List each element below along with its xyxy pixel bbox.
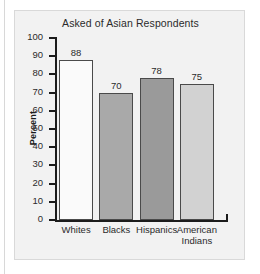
y-tick-mark — [49, 73, 55, 75]
figure-root: Asked of Asian Respondents Percent 01020… — [0, 0, 260, 274]
y-tick-mark — [49, 164, 55, 166]
x-axis-line — [55, 220, 228, 222]
y-tick-mark — [49, 110, 55, 112]
y-tick-label: 70 — [17, 87, 43, 97]
category-label-line: American — [173, 224, 221, 235]
y-tick-label: 80 — [17, 68, 43, 78]
y-tick-label: 10 — [17, 196, 43, 206]
page-edge-rule — [4, 0, 5, 274]
bar-value-label: 75 — [177, 71, 217, 82]
category-label: AmericanIndians — [173, 224, 221, 246]
bar-value-label: 78 — [137, 65, 177, 76]
y-tick-label: 50 — [17, 123, 43, 133]
y-tick-label: 100 — [17, 32, 43, 42]
category-label-line: Indians — [173, 235, 221, 246]
y-tick-label: 40 — [17, 141, 43, 151]
x-axis-endcap — [226, 214, 228, 222]
y-tick-label: 60 — [17, 105, 43, 115]
bar-value-label: 88 — [56, 47, 96, 58]
y-tick-label: 0 — [17, 214, 43, 224]
chart-panel: Asked of Asian Respondents Percent 01020… — [14, 10, 245, 260]
y-tick-mark — [49, 55, 55, 57]
bar-blacks — [99, 93, 133, 220]
y-tick-mark — [49, 183, 55, 185]
bar-value-label: 70 — [96, 80, 136, 91]
y-tick-mark — [49, 146, 55, 148]
chart-title: Asked of Asian Respondents — [15, 17, 246, 29]
y-tick-label: 90 — [17, 50, 43, 60]
y-tick-mark — [49, 37, 55, 39]
bar-whites — [59, 60, 93, 220]
bar-hispanics — [140, 78, 174, 220]
y-tick-mark — [49, 219, 55, 221]
y-tick-mark — [49, 92, 55, 94]
y-tick-label: 30 — [17, 159, 43, 169]
y-tick-mark — [49, 201, 55, 203]
y-tick-mark — [49, 128, 55, 130]
y-tick-label: 20 — [17, 178, 43, 188]
bar-american-indians — [180, 84, 214, 221]
